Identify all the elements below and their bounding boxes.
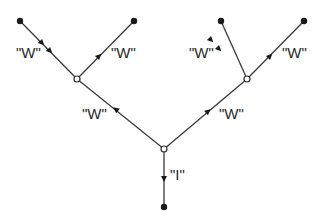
external-node-leaf1 xyxy=(17,18,23,24)
external-node-leaf2 xyxy=(131,18,137,24)
label-i-bottom: "I" xyxy=(170,166,185,183)
label-w-top-right: "W" xyxy=(282,44,307,61)
vertex-left xyxy=(74,76,80,82)
external-node-leaf3 xyxy=(218,18,224,24)
vertex-right xyxy=(244,76,250,82)
label-w-middle-right: "W" xyxy=(219,105,244,122)
external-node-bottom xyxy=(161,204,167,210)
edge-leaf3-vertex-right xyxy=(221,21,247,79)
feynman-diagram: "W" "W" "W" "W" "W" "W" "I" xyxy=(0,0,323,224)
label-w-top-midleft: "W" xyxy=(111,44,136,61)
diagram-svg: "W" "W" "W" "W" "W" "W" "I" xyxy=(0,0,323,224)
label-w-middle-left: "W" xyxy=(82,105,107,122)
arrow-icon xyxy=(215,45,223,53)
vertex-center xyxy=(161,146,167,152)
arrow-icon xyxy=(161,176,167,182)
label-w-top-midright: "W" xyxy=(189,44,214,61)
external-node-leaf4 xyxy=(301,18,307,24)
label-w-top-left: "W" xyxy=(16,44,41,61)
